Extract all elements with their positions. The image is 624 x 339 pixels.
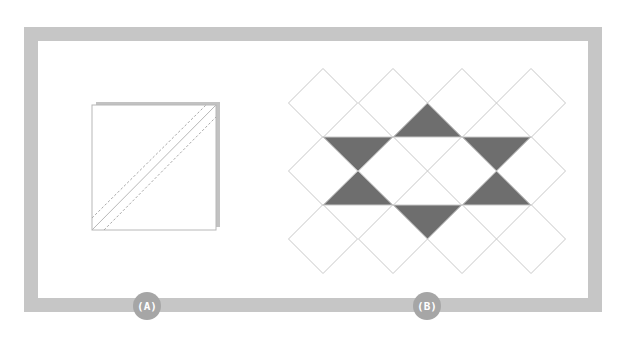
badge-a: (A): [133, 292, 161, 320]
dark-triangle: [462, 171, 531, 205]
diamond-tile: [289, 69, 358, 138]
badge-b: (B): [413, 292, 441, 320]
panel-b: [289, 69, 566, 274]
dark-triangle: [323, 137, 393, 171]
diagram-canvas: (A) (B): [0, 0, 624, 339]
diamond-tile: [497, 205, 566, 274]
diamond-tile: [497, 69, 566, 138]
dark-triangle: [462, 137, 531, 171]
panel-a: [92, 102, 220, 230]
badge-a-label: (A): [137, 300, 157, 313]
dark-triangle: [393, 205, 462, 239]
dark-triangle: [323, 171, 393, 205]
badge-b-label: (B): [417, 300, 437, 313]
diamond-tile: [289, 205, 358, 274]
dark-triangle: [393, 103, 462, 137]
